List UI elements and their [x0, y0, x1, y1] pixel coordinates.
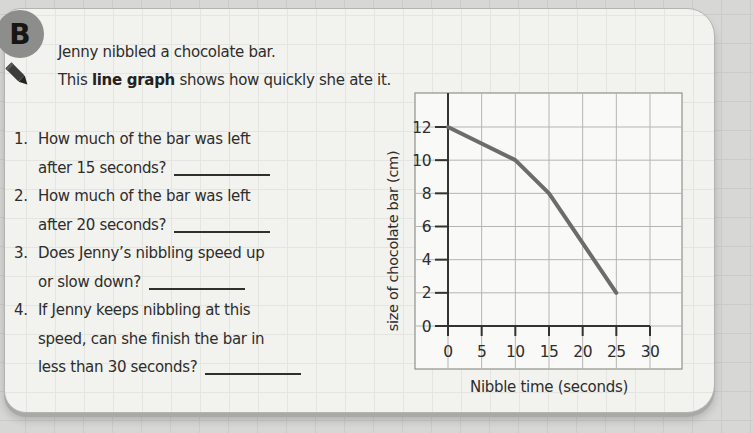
- question-3-line-2: or slow down?: [38, 268, 384, 297]
- question-1-line-2: after 15 seconds?: [38, 154, 384, 183]
- question-2-number: 2.: [14, 182, 38, 239]
- question-4: 4. If Jenny keeps nibbling at this speed…: [14, 296, 384, 382]
- svg-text:25: 25: [607, 343, 626, 361]
- svg-text:30: 30: [641, 343, 660, 361]
- svg-text:5: 5: [477, 343, 486, 361]
- question-2: 2. How much of the bar was left after 20…: [14, 182, 384, 239]
- question-4-line-3: less than 30 seconds?: [38, 353, 384, 382]
- svg-text:0: 0: [443, 343, 452, 361]
- exercise-badge: B: [0, 10, 44, 58]
- question-1-number: 1.: [14, 125, 38, 182]
- y-axis-label: size of chocolate bar (cm): [385, 126, 405, 356]
- question-4-number: 4.: [14, 296, 38, 382]
- answer-blank-2[interactable]: [174, 220, 270, 233]
- svg-text:2: 2: [422, 284, 431, 302]
- svg-text:15: 15: [540, 343, 559, 361]
- svg-text:0: 0: [422, 318, 431, 336]
- question-1-line-1: How much of the bar was left: [38, 125, 384, 154]
- intro-line-2: This line graph shows how quickly she at…: [58, 66, 391, 94]
- intro-line-1: Jenny nibbled a chocolate bar.: [58, 38, 391, 66]
- svg-text:10: 10: [506, 343, 525, 361]
- intro-text: Jenny nibbled a chocolate bar. This line…: [58, 38, 391, 94]
- chart-plot-area: 024681012051015202530: [383, 81, 695, 411]
- svg-text:4: 4: [422, 251, 431, 269]
- pencil-icon: [4, 60, 34, 92]
- question-3: 3. Does Jenny’s nibbling speed up or slo…: [14, 239, 384, 296]
- svg-text:6: 6: [422, 218, 431, 236]
- question-list: 1. How much of the bar was left after 15…: [14, 125, 384, 382]
- answer-blank-3[interactable]: [149, 277, 245, 290]
- question-4-line-1: If Jenny keeps nibbling at this: [38, 296, 384, 325]
- question-2-line-2: after 20 seconds?: [38, 211, 384, 240]
- worksheet-card: B Jenny nibbled a chocolate bar. This li…: [4, 8, 715, 413]
- line-chart: 024681012051015202530 size of chocolate …: [383, 81, 695, 411]
- x-axis-label: Nibble time (seconds): [403, 378, 695, 396]
- svg-text:10: 10: [412, 152, 431, 170]
- svg-text:20: 20: [573, 343, 592, 361]
- answer-blank-1[interactable]: [174, 163, 270, 176]
- worksheet-page: B Jenny nibbled a chocolate bar. This li…: [0, 0, 753, 433]
- answer-blank-4[interactable]: [205, 362, 301, 375]
- svg-text:8: 8: [422, 185, 431, 203]
- exercise-badge-letter: B: [9, 18, 30, 51]
- question-3-line-1: Does Jenny’s nibbling speed up: [38, 239, 384, 268]
- question-2-line-1: How much of the bar was left: [38, 182, 384, 211]
- svg-text:12: 12: [412, 119, 431, 137]
- question-4-line-2: speed, can she finish the bar in: [38, 325, 384, 354]
- question-1: 1. How much of the bar was left after 15…: [14, 125, 384, 182]
- intro-bold-term: line graph: [92, 71, 175, 89]
- question-3-number: 3.: [14, 239, 38, 296]
